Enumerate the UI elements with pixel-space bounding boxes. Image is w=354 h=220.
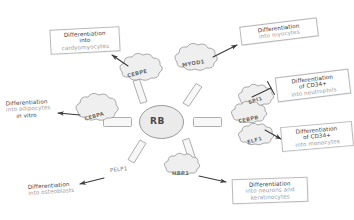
outcome-neurons-keratinocytes[interactable]: Differentiation into neurons and keratin… [232,177,309,204]
spoke-myod1 [183,84,202,107]
outcome-cardyomyocytes[interactable]: Differentiation into cardyomyocytes [49,26,120,54]
cloud-cebpe[interactable] [120,53,162,80]
spoke-pelp1 [128,140,146,163]
rb-hub-label: RB [150,116,165,126]
spoke-cebpa [104,118,132,127]
outcome-adipocytes[interactable]: Differentiation into adipocytes in vitro [6,98,63,120]
edge-myod1-myocytes [213,45,237,57]
spoke-cebpe [133,79,147,103]
cloud-cebpa[interactable] [76,93,118,120]
edge-hbp1-neurons [199,176,226,182]
cloud-elf1[interactable] [238,123,273,145]
spoke-spi1-elf1 [194,118,222,127]
cloud-myod1[interactable] [175,43,217,70]
